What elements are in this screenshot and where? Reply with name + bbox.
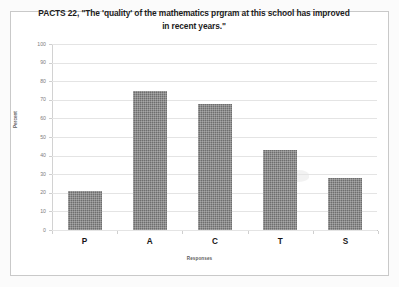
bar-series: [52, 44, 378, 230]
chart-title: PACTS 22, "The 'quality' of the mathemat…: [34, 7, 354, 32]
y-axis-tick-label: 100: [24, 42, 46, 47]
x-axis-title: Responses: [0, 256, 399, 261]
bar: [198, 104, 232, 230]
x-axis-tick-mark: [313, 231, 314, 234]
bar: [133, 91, 167, 231]
x-axis-category-label: P: [60, 237, 110, 246]
bar-slot: [248, 44, 313, 230]
bar: [263, 150, 297, 230]
x-axis-tick-mark: [248, 231, 249, 234]
y-axis-title: Percent: [13, 111, 18, 128]
x-axis-category-label: S: [320, 237, 370, 246]
y-axis-tick-label: 70: [24, 97, 46, 102]
y-axis-tick-label: 80: [24, 79, 46, 84]
gridline: [52, 230, 377, 231]
bar-slot: [52, 44, 117, 230]
x-axis-tick-mark: [182, 231, 183, 234]
y-axis-tick-label: 20: [24, 190, 46, 195]
bar-slot: [117, 44, 182, 230]
y-axis-tick-label: 90: [24, 60, 46, 65]
y-axis-tick-label: 10: [24, 209, 46, 214]
bar: [68, 191, 102, 230]
bar-slot: [182, 44, 247, 230]
bar: [328, 178, 362, 230]
y-axis-tick-label: 60: [24, 116, 46, 121]
chart-screenshot: PACTS 22, "The 'quality' of the mathemat…: [0, 0, 399, 287]
y-axis-tick-label: 40: [24, 153, 46, 158]
y-axis-tick-label: 50: [24, 135, 46, 140]
x-axis-category-label: A: [125, 237, 175, 246]
y-axis-tick-label: 0: [24, 228, 46, 233]
x-axis-category-label: T: [255, 237, 305, 246]
x-axis-tick-mark: [378, 231, 379, 234]
x-axis-tick-mark: [117, 231, 118, 234]
bar-slot: [313, 44, 378, 230]
y-axis-tick-label: 30: [24, 172, 46, 177]
x-axis-category-label: C: [190, 237, 240, 246]
x-axis-tick-mark: [52, 231, 53, 234]
